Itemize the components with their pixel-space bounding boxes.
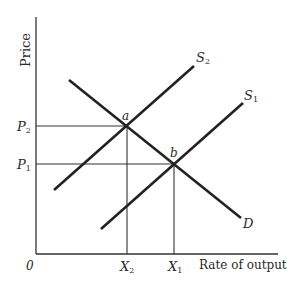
x2-label: X2 <box>119 259 134 275</box>
origin-label: 0 <box>26 259 34 273</box>
p1-label: P1 <box>16 157 31 173</box>
point-b-label: b <box>170 146 178 160</box>
s2-label: S2 <box>196 50 210 66</box>
p2-label: P2 <box>16 119 31 135</box>
s1-label: S1 <box>244 88 258 104</box>
x-axis-label: Rate of output <box>199 258 287 272</box>
x1-label: X1 <box>167 259 182 275</box>
d-label: D <box>242 216 254 231</box>
point-a-label: a <box>122 109 129 123</box>
supply-demand-diagram: Price P2 P1 0 X2 X1 Rate of output S2 S1… <box>0 0 293 287</box>
y-axis-label: Price <box>18 33 33 67</box>
